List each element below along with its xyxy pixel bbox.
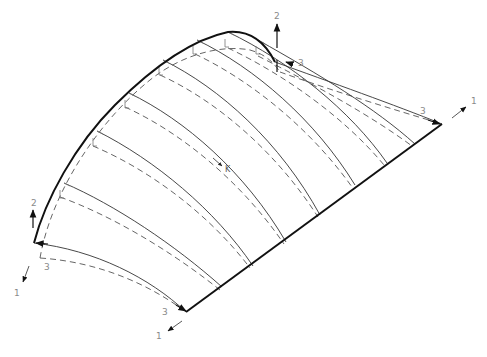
- axis-3-label-bottom: 3: [162, 307, 168, 317]
- axis-3-label-top: 3: [298, 58, 304, 68]
- axis-2-label-left: 2: [31, 198, 37, 208]
- undeformed-root-edge: [40, 258, 186, 312]
- rib-3: [129, 93, 286, 242]
- axis-3-label-left: 3: [44, 262, 50, 272]
- rib-6: [228, 32, 387, 163]
- k-label: K: [225, 165, 231, 174]
- dashed-rib-6: [228, 48, 384, 165]
- rib-7: [258, 40, 415, 144]
- axis-3-arrow-top: [286, 62, 292, 64]
- rib-5: [197, 40, 355, 185]
- root-edge: [34, 243, 186, 312]
- axis-3-arrow-bottom: [176, 305, 186, 311]
- axis-2-label-top: 2: [274, 11, 280, 21]
- leading-edge: [34, 32, 275, 243]
- k-arrow: [213, 158, 222, 166]
- rib-1: [64, 183, 222, 287]
- axis-1-label-right: 1: [471, 96, 477, 106]
- axis-1-label-bottom: 1: [156, 331, 162, 341]
- dashed-rib-4: [160, 75, 318, 217]
- trailing-edge: [186, 124, 442, 312]
- axis-3-label-right: 3: [420, 106, 426, 116]
- axis-1-arrow-bottom: [168, 321, 182, 331]
- junction-ticks: [60, 32, 264, 198]
- axis-1-arrow-right: [452, 107, 466, 118]
- rib-2: [97, 131, 253, 266]
- dashed-rib-5: [195, 54, 352, 187]
- shell-surface-diagram: 2 3 3 1 2 3 1 3 1 K: [0, 0, 487, 357]
- axis-1-label-left: 1: [14, 288, 20, 298]
- dashed-rib-7: [258, 56, 412, 146]
- axis-1-arrow-left: [23, 266, 29, 282]
